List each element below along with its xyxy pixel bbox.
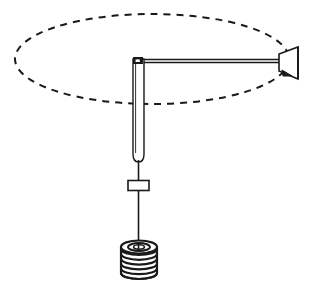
slider-block-group (128, 181, 149, 191)
horizontal-arm-group (138, 60, 282, 63)
pivot-block-inner-gap (136, 59, 140, 62)
vertical-rod-body (133, 59, 144, 162)
figure-root (0, 0, 317, 289)
mechanical-diagram-svg (0, 0, 317, 289)
coil-weight-group (121, 241, 157, 280)
vertical-rod-group (133, 58, 144, 163)
slider-block (128, 181, 149, 191)
